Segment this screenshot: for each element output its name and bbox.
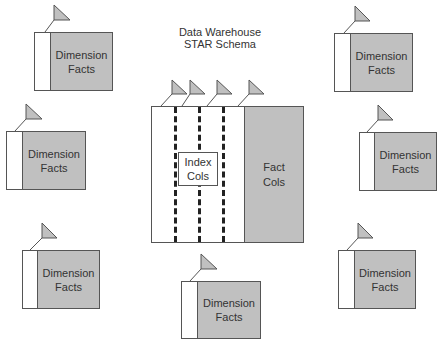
dimension-label: Dimension Facts — [375, 133, 436, 190]
flag-icon — [347, 223, 373, 250]
dimension-table-middle-right: Dimension Facts — [359, 132, 437, 191]
dimension-label: Dimension Facts — [51, 33, 112, 90]
flag-icon — [190, 254, 217, 281]
dimension-key-column — [360, 133, 375, 190]
dimension-key-column — [339, 251, 355, 308]
dimension-label: Dimension Facts — [351, 34, 412, 91]
dimension-label: Dimension Facts — [38, 251, 99, 308]
flag-icon — [238, 80, 264, 106]
dimension-table-bottom-center: Dimension Facts — [181, 281, 261, 339]
dimension-label: Dimension Facts — [23, 132, 85, 189]
dimension-key-column — [182, 282, 198, 338]
dimension-table-top-right: Dimension Facts — [334, 33, 413, 92]
dimension-key-column — [35, 33, 51, 90]
dimension-key-column — [335, 34, 351, 91]
dimension-table-top-left: Dimension Facts — [34, 32, 113, 91]
flag-icon — [207, 80, 232, 106]
flag-icon — [161, 80, 187, 106]
flag-icon — [344, 6, 370, 33]
dimension-label: Dimension Facts — [198, 282, 260, 338]
dimension-table-bottom-right: Dimension Facts — [338, 250, 416, 309]
index-cols-label: Index Cols — [178, 152, 218, 186]
flag-icon — [367, 105, 393, 132]
index-column-divider — [174, 107, 177, 242]
dimension-label: Dimension Facts — [355, 251, 415, 308]
flag-icon — [15, 104, 42, 131]
flag-icon — [45, 5, 70, 32]
index-column-divider — [222, 107, 225, 242]
fact-cols-region: Fact Cols — [244, 107, 303, 242]
star-schema-diagram: Data Warehouse STAR Schema — [0, 0, 444, 349]
dimension-table-bottom-left: Dimension Facts — [22, 250, 100, 309]
dimension-key-column — [7, 132, 23, 189]
dimension-table-middle-left: Dimension Facts — [6, 131, 86, 190]
fact-table: Index Cols Fact Cols — [151, 106, 304, 243]
flag-icon — [30, 223, 57, 250]
dimension-key-column — [23, 251, 38, 308]
